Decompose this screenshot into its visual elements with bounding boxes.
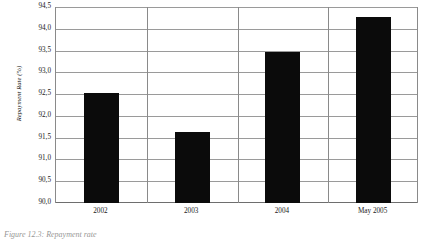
y-tick-label: 93,5	[18, 47, 51, 54]
x-tick-label: 2002	[55, 206, 145, 216]
x-tick-label: May 2005	[328, 206, 418, 216]
y-tick-label: 90,0	[18, 199, 51, 206]
x-tick-label: 2003	[146, 206, 236, 216]
y-tick-label: 91,0	[18, 156, 51, 163]
y-axis-tick-labels: 94,594,093,593,092,592,091,591,090,590,0	[18, 7, 51, 203]
y-tick-label: 93,0	[18, 69, 51, 76]
x-axis-tick-labels: 200220032004May 2005	[55, 206, 418, 220]
bar	[84, 93, 119, 203]
bar	[356, 17, 391, 203]
y-tick-label: 92,0	[18, 112, 51, 119]
plot-area	[55, 7, 418, 203]
bar	[175, 132, 210, 203]
vertical-gridline	[147, 7, 148, 203]
y-tick-label: 94,5	[18, 3, 51, 10]
y-tick-label: 90,5	[18, 178, 51, 185]
gridline	[56, 7, 417, 8]
vertical-gridline	[328, 7, 329, 203]
bar-chart-figure: Repayment Rate (%) 94,594,093,593,092,59…	[0, 0, 437, 239]
x-tick-label: 2004	[237, 206, 327, 216]
y-tick-label: 94,0	[18, 25, 51, 32]
y-tick-label: 92,5	[18, 91, 51, 98]
y-tick-label: 91,5	[18, 134, 51, 141]
vertical-gridline	[238, 7, 239, 203]
bar	[265, 52, 300, 203]
figure-caption: Figure 12.3: Repayment rate	[0, 231, 437, 239]
